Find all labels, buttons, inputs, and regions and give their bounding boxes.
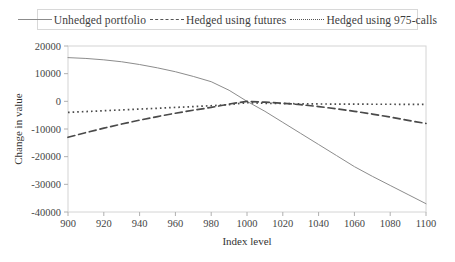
chart-figure: Unhedged portfolio Hedged using futures … [0,0,455,262]
series-line-1 [68,101,426,137]
axis-ticks [64,46,426,216]
x-tick-label: 940 [132,218,148,229]
y-tick-label: 10000 [35,68,61,79]
plot-frame [68,46,426,212]
y-axis-title: Change in value [12,93,24,165]
x-axis-tick-labels: 900920940960980100010201040106010801100 [60,218,436,229]
x-tick-label: 1000 [237,218,258,229]
y-tick-label: -10000 [31,124,61,135]
series-line-2 [68,103,426,113]
series-line-0 [68,58,426,204]
x-tick-label: 920 [96,218,112,229]
x-tick-label: 1060 [344,218,365,229]
x-tick-label: 1100 [416,218,437,229]
chart-plot-area: 900920940960980100010201040106010801100 … [0,0,455,262]
y-tick-label: -20000 [31,151,61,162]
x-tick-label: 980 [203,218,219,229]
x-axis-title: Index level [222,235,271,247]
x-tick-label: 1040 [308,218,329,229]
x-tick-label: 1020 [272,218,293,229]
chart-series-lines [68,58,426,204]
y-tick-label: -30000 [31,179,61,190]
y-axis-tick-labels: 20000100000-10000-20000-30000-40000 [31,41,61,218]
x-tick-label: 900 [60,218,76,229]
x-tick-label: 1080 [380,218,401,229]
x-tick-label: 960 [168,218,184,229]
y-tick-label: 20000 [35,41,61,52]
y-tick-label: -40000 [31,207,61,218]
y-tick-label: 0 [56,96,61,107]
